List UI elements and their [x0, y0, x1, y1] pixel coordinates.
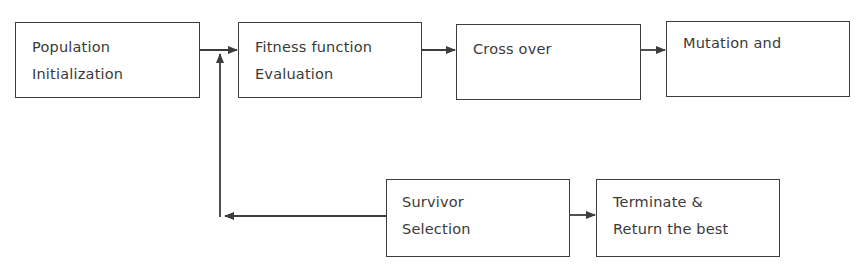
genetic-algorithm-flowchart: Population Initialization Fitness functi… [0, 0, 860, 270]
node-terminate: Terminate & Return the best [596, 179, 780, 257]
node-label-line: Selection [402, 216, 569, 243]
node-population-initialization: Population Initialization [15, 22, 200, 98]
node-label-line: Mutation and [683, 30, 849, 57]
node-label-line: Cross over [473, 36, 640, 63]
node-survivor-selection: Survivor Selection [386, 179, 570, 257]
node-label-line: Survivor [402, 189, 569, 216]
node-label-line: Initialization [32, 61, 199, 88]
node-label-line: Evaluation [255, 61, 421, 88]
node-label-line: Fitness function [255, 34, 421, 61]
node-label-line: Return the best [613, 216, 779, 243]
node-label-line: Population [32, 34, 199, 61]
node-fitness-evaluation: Fitness function Evaluation [238, 22, 422, 98]
node-mutation: Mutation and [666, 21, 850, 97]
node-cross-over: Cross over [456, 24, 641, 100]
node-label-line: Terminate & [613, 189, 779, 216]
